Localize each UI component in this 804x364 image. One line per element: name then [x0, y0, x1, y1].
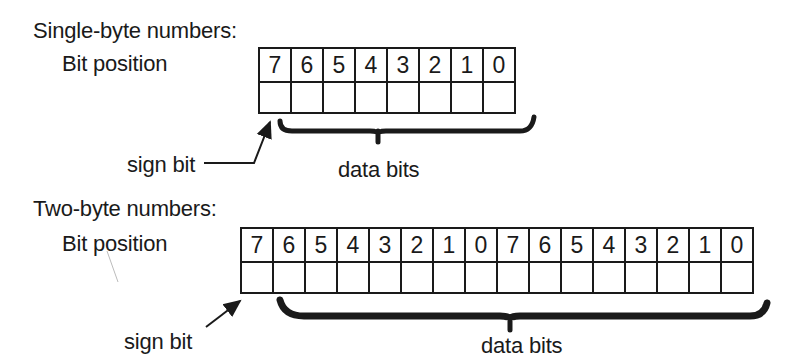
single-sign-arrow-icon [204, 122, 270, 163]
stray-mark [107, 251, 118, 282]
two-data-brace-icon [280, 300, 767, 330]
annotations [0, 0, 804, 364]
single-data-brace-icon [280, 117, 534, 142]
two-sign-arrow-icon [206, 301, 240, 327]
